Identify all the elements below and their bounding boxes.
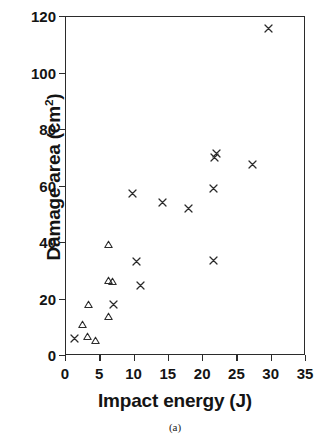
figure-caption: (a): [40, 421, 310, 433]
plot-frame: [65, 16, 305, 355]
y-axis-tick-label: 120: [0, 8, 56, 25]
y-axis-tick: [59, 299, 65, 300]
data-point-triangle-marker: [107, 276, 118, 287]
x-axis-tick: [236, 355, 237, 361]
x-axis-title: Impact energy (J): [40, 390, 310, 412]
data-point-cross-marker: [135, 280, 146, 291]
x-axis-tick: [134, 355, 135, 361]
data-point-triangle-marker: [90, 335, 101, 346]
data-point-triangle-marker: [103, 239, 114, 250]
y-axis-tick: [59, 73, 65, 74]
y-axis-tick-label: 20: [0, 290, 56, 307]
data-point-cross-marker: [263, 23, 274, 34]
x-axis-tick: [202, 355, 203, 361]
data-point-cross-marker: [108, 299, 119, 310]
x-axis-tick: [305, 355, 306, 361]
data-point-cross-marker: [157, 197, 168, 208]
y-axis-tick-label: 60: [0, 177, 56, 194]
y-axis-title-tail: ): [43, 94, 64, 100]
x-axis-tick-label: 35: [285, 365, 324, 382]
x-axis-tick: [271, 355, 272, 361]
y-axis-tick: [59, 242, 65, 243]
data-point-triangle-marker: [103, 311, 114, 322]
y-axis-tick: [59, 129, 65, 130]
plot-area: 02040608010012005101520253035: [65, 16, 305, 355]
x-axis-tick: [65, 355, 66, 361]
data-point-triangle-marker: [77, 319, 88, 330]
x-axis-tick: [99, 355, 100, 361]
y-axis-tick-label: 40: [0, 234, 56, 251]
x-axis-tick: [168, 355, 169, 361]
data-point-cross-marker: [211, 148, 222, 159]
y-axis-tick: [59, 16, 65, 17]
y-axis-title-superscript: 2: [42, 100, 55, 106]
data-point-cross-marker: [183, 203, 194, 214]
y-axis-tick-label: 100: [0, 64, 56, 81]
y-axis-tick: [59, 186, 65, 187]
figure-panel: Damage area (cm2) 0204060801001200510152…: [0, 0, 324, 444]
y-axis-tick-label: 80: [0, 121, 56, 138]
data-point-cross-marker: [69, 333, 80, 344]
data-point-cross-marker: [127, 188, 138, 199]
data-point-triangle-marker: [83, 299, 94, 310]
y-axis-tick-label: 0: [0, 347, 56, 364]
data-point-cross-marker: [208, 255, 219, 266]
data-point-cross-marker: [247, 159, 258, 170]
data-point-cross-marker: [131, 256, 142, 267]
data-point-cross-marker: [208, 183, 219, 194]
